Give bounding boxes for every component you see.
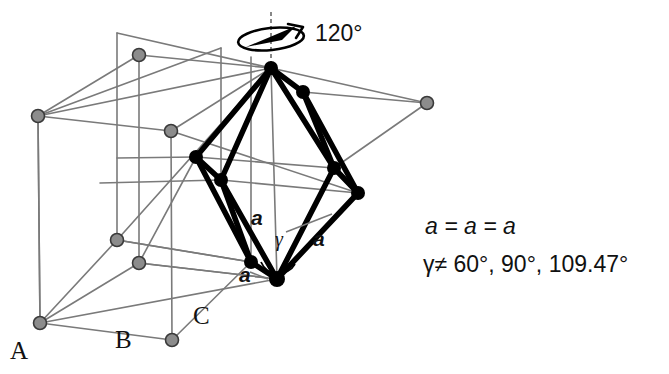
stacking-label-c: C	[193, 303, 210, 328]
edge-label-a-right: a	[313, 228, 325, 249]
crystal-structure-svg	[0, 0, 669, 374]
stacking-label-a: A	[10, 338, 28, 363]
cell-vertex	[351, 186, 365, 200]
lattice-node	[166, 334, 179, 347]
lattice-node	[421, 97, 434, 110]
lattice-node	[165, 125, 178, 138]
legend-line-angles: γ≠ 60°, 90°, 109.47°	[423, 253, 628, 276]
cell-vertex	[327, 161, 341, 175]
rotation-angle-label: 120°	[315, 22, 363, 45]
cell-vertex	[264, 61, 278, 75]
legend-line-lengths: a = a = a	[425, 215, 516, 238]
rotation-arrow-icon	[237, 24, 305, 53]
lattice-node	[133, 49, 146, 62]
lattice-node	[32, 110, 45, 123]
lattice-framework	[38, 33, 427, 340]
edge-label-a-left: a	[251, 207, 263, 228]
gamma-angle-label: γ	[275, 229, 283, 249]
lattice-node	[34, 317, 47, 330]
lattice-node	[133, 257, 146, 270]
cell-vertex	[189, 150, 203, 164]
cell-vertex	[296, 85, 310, 99]
lattice-bottom-net	[40, 240, 277, 340]
lattice-node	[111, 234, 124, 247]
cell-vertex	[214, 173, 228, 187]
stacking-label-b: B	[115, 327, 132, 352]
figure-canvas: 120° A B C a a a γ a = a = a γ≠ 60°, 90°…	[0, 0, 669, 374]
edge-label-a-bottom: a	[239, 264, 251, 285]
lattice-vertical-edges	[38, 33, 277, 340]
